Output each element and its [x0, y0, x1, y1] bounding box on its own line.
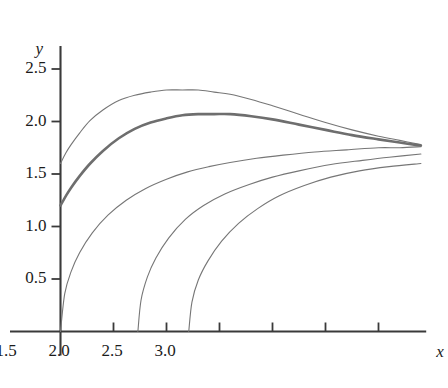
- x-axis-tick-label: 3.0: [155, 341, 176, 361]
- x-axis-label: x: [436, 342, 444, 362]
- x-axis-tick-label: 1.5: [0, 341, 17, 361]
- line-chart-canvas: [0, 0, 448, 388]
- y-axis-tick-label: 0.5: [25, 268, 46, 288]
- y-axis-tick-label: 1.0: [25, 216, 46, 236]
- chart-figure: 0.51.01.52.02.500.51.01.52.02.53.0yx: [0, 0, 448, 388]
- data-line-5: [189, 164, 421, 332]
- x-axis-tick-label: 2.5: [102, 341, 123, 361]
- y-axis-tick-label: 2.0: [25, 111, 46, 131]
- x-axis-tick-label: 2.0: [49, 341, 70, 361]
- data-line-4: [138, 154, 421, 331]
- y-axis-label: y: [36, 39, 44, 59]
- data-line-1: [61, 90, 421, 164]
- data-line-3: [61, 147, 421, 332]
- y-axis-tick-label: 1.5: [25, 163, 46, 183]
- y-axis-tick-label: 2.5: [25, 58, 46, 78]
